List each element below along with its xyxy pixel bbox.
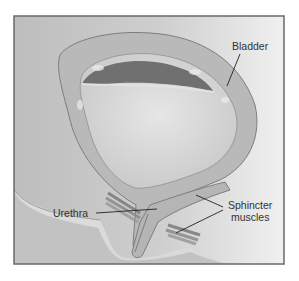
label-bladder: Bladder: [232, 40, 268, 52]
label-sphincter-line2: muscles: [228, 211, 272, 223]
label-urethra: Urethra: [53, 207, 88, 219]
label-sphincter-line1: Sphincter: [228, 199, 272, 211]
label-sphincter-muscles: Sphincter muscles: [228, 199, 272, 223]
bladder-diagram: Bladder Urethra Sphincter muscles: [0, 0, 299, 281]
